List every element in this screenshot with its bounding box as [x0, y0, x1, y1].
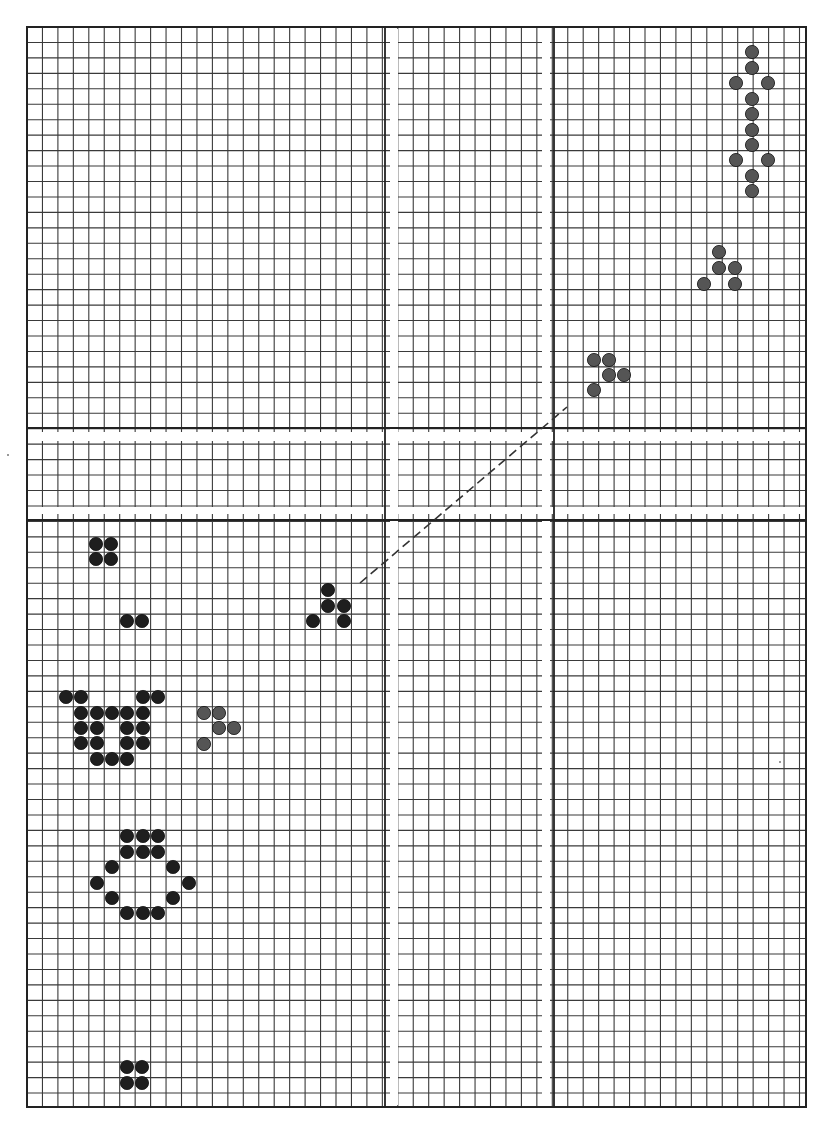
cell-dot	[321, 583, 334, 596]
pattern-ring-shape	[90, 829, 195, 919]
cell-dot	[151, 690, 164, 703]
cell-dot	[74, 736, 87, 749]
cell-dot	[761, 76, 774, 89]
cell-dot	[136, 721, 149, 734]
cell-dot	[151, 906, 164, 919]
pattern-cup-shape	[59, 690, 164, 765]
cell-dot	[59, 690, 72, 703]
stray-mark	[7, 454, 9, 456]
thick-divider-lines	[27, 27, 806, 1107]
paper-crease-bands	[29, 29, 804, 1105]
pattern-glider-mid-left	[197, 706, 240, 750]
cell-dot	[728, 277, 741, 290]
cell-dot	[136, 690, 149, 703]
cell-dot	[728, 261, 741, 274]
cell-dot	[587, 353, 600, 366]
cell-dot	[105, 706, 118, 719]
cell-dot	[120, 1076, 133, 1089]
cell-dot	[136, 829, 149, 842]
cell-dot	[89, 552, 102, 565]
cell-dot	[761, 153, 774, 166]
pattern-glider-center-right	[587, 353, 630, 396]
cell-dot	[306, 614, 319, 627]
cell-dot	[104, 537, 117, 550]
cell-dot	[90, 736, 103, 749]
life-grid-board	[0, 0, 827, 1128]
cell-dot	[745, 123, 758, 136]
cell-dot	[602, 353, 615, 366]
cell-dot	[227, 721, 240, 734]
cell-dot	[745, 107, 758, 120]
cell-dot	[120, 614, 133, 627]
cell-dot	[74, 706, 87, 719]
cell-dot	[136, 906, 149, 919]
crease-band-h	[29, 432, 804, 441]
cell-dot	[337, 599, 350, 612]
cell-dot	[136, 706, 149, 719]
cell-dot	[105, 860, 118, 873]
cell-dot	[120, 829, 133, 842]
cell-dot	[697, 277, 710, 290]
cell-dot	[104, 552, 117, 565]
cell-dot	[90, 876, 103, 889]
pattern-block-bottom	[120, 1060, 148, 1089]
cell-dot	[729, 76, 742, 89]
cell-dot	[729, 153, 742, 166]
cell-dot	[212, 706, 225, 719]
crease-band-v	[542, 29, 550, 1105]
cell-dot	[587, 383, 600, 396]
cell-dot	[745, 45, 758, 58]
cell-dot	[90, 706, 103, 719]
cell-dot	[321, 599, 334, 612]
cell-dot	[745, 138, 758, 151]
cell-dot	[212, 721, 225, 734]
cell-dot	[136, 845, 149, 858]
cell-dot	[89, 537, 102, 550]
cell-dot	[166, 891, 179, 904]
pattern-pair-left	[120, 614, 148, 627]
cell-dot	[151, 829, 164, 842]
cell-dot	[120, 721, 133, 734]
cell-dot	[136, 736, 149, 749]
cell-dot	[166, 860, 179, 873]
cell-dot	[90, 721, 103, 734]
crease-band-v	[390, 29, 398, 1105]
cell-dot	[120, 736, 133, 749]
pattern-glider-center-left	[306, 583, 350, 627]
cell-dot	[197, 737, 210, 750]
cell-dot	[197, 706, 210, 719]
pattern-glider-upper-right	[697, 245, 741, 290]
cell-dot	[120, 906, 133, 919]
cell-dot	[617, 368, 630, 381]
cell-dot	[151, 845, 164, 858]
cell-dot	[90, 752, 103, 765]
cell-dot	[74, 721, 87, 734]
cell-dot	[602, 368, 615, 381]
cell-dot	[135, 614, 148, 627]
cell-dot	[712, 245, 725, 258]
cell-dot	[120, 845, 133, 858]
cell-dot	[135, 1076, 148, 1089]
cell-dot	[337, 614, 350, 627]
cell-dot	[105, 891, 118, 904]
cell-dot	[120, 752, 133, 765]
cell-dot	[182, 876, 195, 889]
cell-dot	[120, 706, 133, 719]
grid-lines	[27, 27, 806, 1107]
cell-dot	[105, 752, 118, 765]
cell-dot	[745, 169, 758, 182]
cell-dot	[74, 690, 87, 703]
cell-dot	[120, 1060, 133, 1073]
pattern-block-left	[89, 537, 117, 565]
cell-dot	[745, 184, 758, 197]
crease-band-h	[29, 507, 804, 514]
cell-dot	[745, 61, 758, 74]
cell-dot	[745, 92, 758, 105]
grid-border	[27, 27, 806, 1107]
pattern-vertical-spaceship	[729, 45, 774, 197]
cell-dot	[135, 1060, 148, 1073]
stray-mark	[779, 761, 781, 763]
cell-dot	[712, 261, 725, 274]
